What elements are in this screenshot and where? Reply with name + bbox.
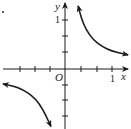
marker-dot: [2, 11, 4, 13]
curve-branch-quadrant-I: [78, 6, 128, 55]
curve-branch-quadrant-III: [3, 84, 51, 126]
origin-label: O: [55, 71, 63, 83]
hyperbola-graph: y 1 O 1 x: [0, 0, 131, 129]
y-tick-label: 1: [55, 14, 60, 25]
x-tick-label: 1: [110, 73, 115, 84]
x-axis-label: x: [120, 70, 126, 82]
y-axis-label: y: [54, 0, 60, 12]
